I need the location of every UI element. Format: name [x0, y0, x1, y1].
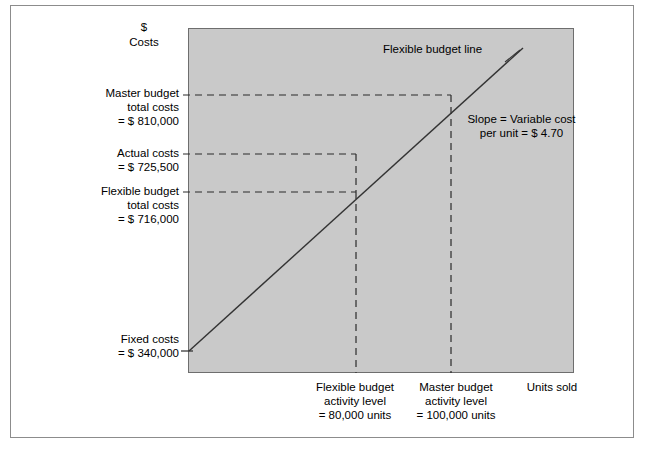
plot-area [188, 28, 574, 373]
slope-annotation: Slope = Variable cost per unit = $ 4.70 [454, 112, 589, 140]
master-budget-activity-level-label: Master budget activity level = 100,000 u… [396, 380, 516, 422]
actual-costs-label: Actual costs = $ 725,500 [29, 146, 179, 174]
y-axis-title: $ Costs [109, 20, 179, 50]
flexible-budget-line-caption: Flexible budget line [383, 42, 513, 56]
x-axis-title: Units sold [512, 380, 592, 394]
fixed-costs-label: Fixed costs = $ 340,000 [29, 332, 179, 360]
master-budget-total-costs-label: Master budget total costs = $ 810,000 [29, 86, 179, 128]
flexible-budget-total-costs-label: Flexible budget total costs = $ 716,000 [29, 184, 179, 226]
figure-frame: $ Costs Master budget total costs = $ 81… [10, 5, 634, 438]
